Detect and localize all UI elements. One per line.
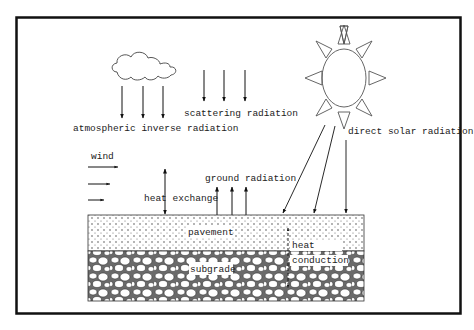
pavement-heat-diagram: atmospheric inverse radiation scattering… [0, 0, 474, 330]
conduction-label: conduction [292, 255, 349, 266]
scattering-radiation-label: scattering radiation [184, 108, 298, 119]
atmospheric-inverse-radiation-arrows [122, 86, 163, 118]
subgrade-label: subgrade [190, 264, 236, 275]
scattering-radiation-arrows [204, 70, 245, 101]
ground-radiation-arrows [217, 187, 246, 215]
direct-solar-radiation-arrows [283, 125, 346, 213]
heat-label: heat [292, 240, 315, 251]
sun-icon [305, 25, 386, 129]
atmospheric-inverse-radiation-label: atmospheric inverse radiation [73, 123, 238, 134]
heat-exchange-label: heat exchange [144, 193, 218, 204]
pavement-label: pavement [188, 227, 234, 238]
cloud-icon [112, 52, 176, 80]
ground-radiation-label: ground radiation [205, 173, 296, 184]
wind-label: wind [91, 151, 114, 162]
direct-solar-radiation-label: direct solar radiation [348, 126, 473, 137]
wind-arrows [88, 167, 118, 200]
